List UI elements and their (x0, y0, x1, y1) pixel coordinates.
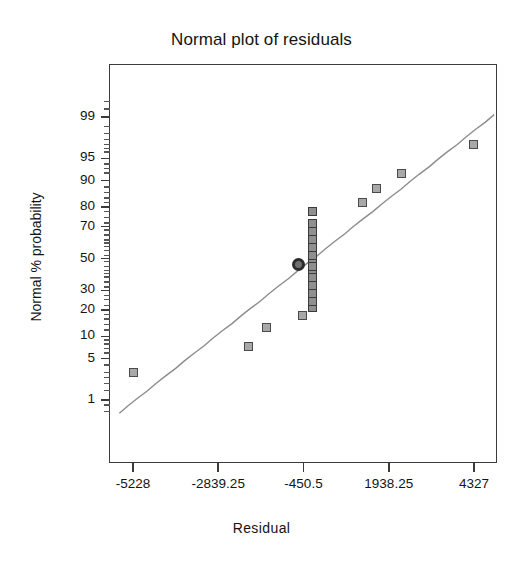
y-tick-minor (104, 348, 110, 349)
data-point (244, 342, 253, 351)
normal-probability-plot: Normal plot of residuals Normal % probab… (0, 0, 523, 568)
y-tick-minor (104, 343, 110, 344)
y-tick (101, 206, 110, 208)
y-tick-minor (104, 281, 110, 282)
y-tick-minor (104, 168, 110, 169)
y-tick-minor (104, 148, 110, 149)
y-tick-minor (104, 404, 110, 405)
y-tick (101, 336, 110, 338)
data-point (308, 227, 317, 236)
y-tick-minor (104, 270, 110, 271)
y-tick-minor (104, 217, 110, 218)
y-tick-minor (104, 377, 110, 378)
y-tick-minor (104, 239, 110, 240)
x-axis-label: Residual (0, 520, 523, 536)
y-tick-minor (104, 242, 110, 243)
y-tick (101, 258, 110, 260)
y-tick-minor (104, 324, 110, 325)
y-tick-minor (104, 339, 110, 340)
data-point (469, 140, 478, 149)
y-tick-label: 1 (35, 391, 95, 406)
y-tick-minor (104, 372, 110, 373)
y-tick (101, 358, 110, 360)
y-tick-minor (104, 144, 110, 145)
chart-title: Normal plot of residuals (0, 30, 523, 50)
y-tick-minor (104, 276, 110, 277)
y-tick-minor (104, 352, 110, 353)
y-tick-minor (104, 273, 110, 274)
y-tick (101, 309, 110, 311)
y-tick (101, 116, 110, 118)
data-point (308, 251, 317, 260)
y-tick-minor (104, 364, 110, 365)
data-point (308, 219, 317, 228)
data-point (262, 323, 271, 332)
y-tick-label: 30 (35, 281, 95, 296)
y-tick-minor (104, 229, 110, 230)
y-tick (101, 226, 110, 228)
data-point (308, 273, 317, 282)
y-tick-minor (104, 390, 110, 391)
y-tick-label: 10 (35, 327, 95, 342)
y-tick-minor (104, 202, 110, 203)
y-tick-label: 20 (35, 301, 95, 316)
y-tick-minor (104, 151, 110, 152)
data-point (397, 169, 406, 178)
y-tick (101, 399, 110, 401)
y-tick-label: 80 (35, 198, 95, 213)
y-tick (101, 290, 110, 292)
y-tick-minor (104, 329, 110, 330)
y-tick-minor (104, 255, 110, 256)
y-tick-label: 5 (35, 350, 95, 365)
y-tick-minor (104, 266, 110, 267)
y-tick-minor (104, 197, 110, 198)
y-tick-label: 99 (35, 108, 95, 123)
y-tick-minor (104, 172, 110, 173)
y-tick-minor (104, 261, 110, 262)
y-tick-minor (104, 299, 110, 300)
y-tick-minor (104, 211, 110, 212)
y-tick-label: 90 (35, 172, 95, 187)
y-tick-minor (104, 246, 110, 247)
x-tick (217, 463, 219, 472)
data-point (308, 235, 317, 244)
y-tick (101, 158, 110, 160)
y-tick-minor (104, 186, 110, 187)
data-point (372, 184, 381, 193)
x-tick (388, 463, 390, 472)
x-tick (132, 463, 134, 472)
y-tick-minor (104, 250, 110, 251)
y-tick-minor (104, 192, 110, 193)
y-tick-minor (104, 318, 110, 319)
y-tick-minor (104, 295, 110, 296)
y-tick (101, 180, 110, 182)
y-tick-minor (104, 222, 110, 223)
data-point (308, 262, 317, 271)
y-tick-minor (104, 133, 110, 134)
x-tick-label: 4327 (414, 476, 523, 491)
y-tick-label: 95 (35, 149, 95, 164)
y-tick-minor (104, 234, 110, 235)
data-point (308, 281, 317, 290)
data-point (308, 207, 317, 216)
y-tick-minor (104, 101, 110, 102)
x-tick (303, 463, 305, 472)
data-point (358, 198, 367, 207)
y-tick-minor (104, 286, 110, 287)
data-point (298, 311, 307, 320)
y-tick-minor (104, 411, 110, 412)
highlighted-data-point (292, 258, 305, 271)
y-tick-minor (104, 305, 110, 306)
y-tick-label: 50 (35, 250, 95, 265)
data-point (308, 289, 317, 298)
y-tick-minor (104, 126, 110, 127)
data-point (308, 243, 317, 252)
y-tick-label: 70 (35, 218, 95, 233)
y-tick-minor (104, 163, 110, 164)
y-tick-minor (104, 108, 110, 109)
y-tick-minor (104, 139, 110, 140)
x-tick (473, 463, 475, 472)
y-tick-minor (104, 383, 110, 384)
y-tick-minor (104, 314, 110, 315)
data-point (129, 368, 138, 377)
